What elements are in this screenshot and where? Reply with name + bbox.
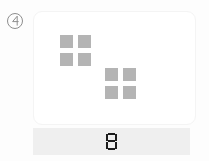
stage [0, 0, 209, 161]
segment-middle [108, 140, 115, 142]
square-group-lower-right [105, 68, 136, 99]
grid-square [78, 35, 91, 48]
four-glyph-icon [8, 14, 22, 28]
segment-bottom-right [115, 142, 117, 149]
circled-four-icon [7, 13, 23, 29]
grid-square [60, 35, 73, 48]
seven-segment-digit [106, 133, 117, 150]
answer-bar [33, 128, 190, 155]
segment-top-right [115, 134, 117, 141]
grid-square [105, 68, 118, 81]
grid-square [78, 53, 91, 66]
grid-square [123, 68, 136, 81]
grid-square [105, 86, 118, 99]
segment-bottom [108, 148, 115, 150]
grid-square [123, 86, 136, 99]
counting-card [33, 11, 196, 125]
segment-top [108, 133, 115, 135]
grid-square [60, 53, 73, 66]
square-group-upper-left [60, 35, 91, 66]
